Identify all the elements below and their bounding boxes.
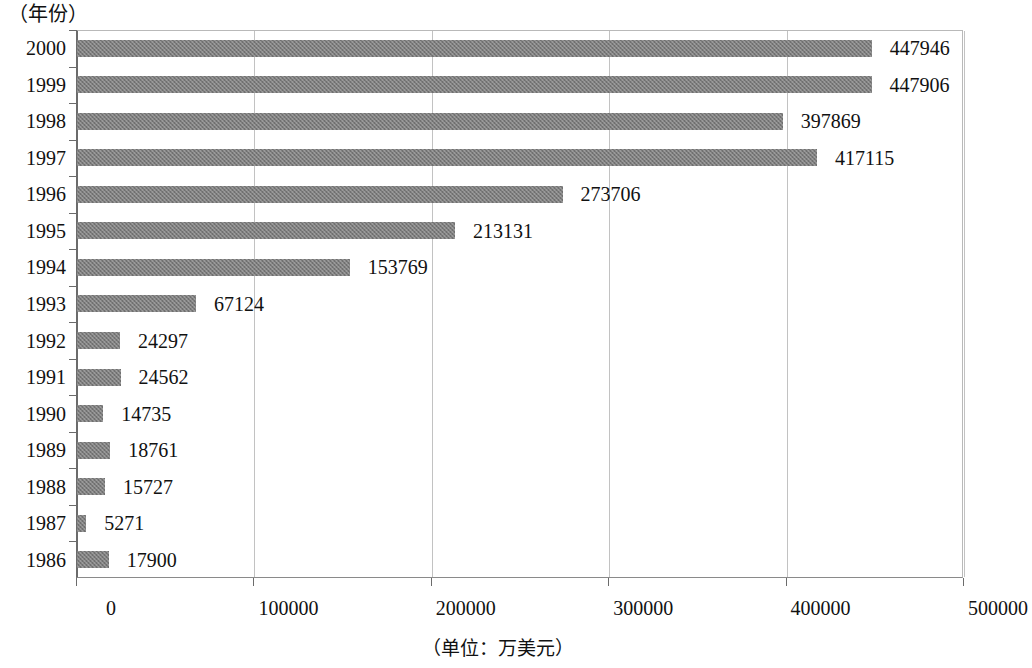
bar-row: 1999447906 [0,67,995,104]
bar-value-label: 14735 [121,403,171,425]
y-axis-tick-label: 1998 [0,111,66,131]
bar-value-label: 397869 [801,110,861,132]
bar-row: 1997417115 [0,140,995,177]
x-axis-tick-mark [431,578,432,586]
bar-value-label: 273706 [581,183,641,205]
bar-value-label: 417115 [835,147,894,169]
bar [77,149,817,166]
bar [77,222,455,239]
bar [77,332,120,349]
y-axis-tick-label: 1987 [0,513,66,533]
bar-row: 1994153769 [0,249,995,286]
bar-value-label: 213131 [473,220,533,242]
y-axis-tick-mark [69,541,77,542]
y-axis-tick-mark [69,468,77,469]
x-axis-tick-label: 400000 [751,596,891,620]
bar-row: 2000447946 [0,30,995,67]
bar [77,186,563,203]
y-axis-tick-label: 1999 [0,75,66,95]
bar-row: 199224297 [0,322,995,359]
y-axis-tick-label: 1996 [0,184,66,204]
bar-value-label: 18761 [128,439,178,461]
bar [77,551,109,568]
bar-value-label: 24297 [138,330,188,352]
y-axis-tick-mark [69,505,77,506]
bar [77,40,872,57]
y-axis-tick-mark [69,213,77,214]
bar-value-label: 5271 [104,512,144,534]
bar-value-label: 67124 [214,293,264,315]
x-axis-tick-mark [608,578,609,586]
x-axis-tick-label: 0 [41,596,181,620]
y-axis-tick-label: 1986 [0,550,66,570]
bar-row: 198815727 [0,468,995,505]
bar [77,113,783,130]
bar-row: 199014735 [0,395,995,432]
bar-value-label: 24562 [139,366,189,388]
y-axis-tick-label: 1994 [0,257,66,277]
y-axis-tick-label: 1989 [0,440,66,460]
bar-row: 1995213131 [0,213,995,250]
y-axis-tick-mark [69,322,77,323]
x-axis-tick-label: 500000 [928,596,1032,620]
y-axis-tick-mark [69,395,77,396]
bar-row: 19875271 [0,505,995,542]
bar-row: 1998397869 [0,103,995,140]
y-axis-tick-label: 1993 [0,294,66,314]
y-axis-tick-label: 1997 [0,148,66,168]
y-axis-tick-label: 1990 [0,404,66,424]
bar-row: 1996273706 [0,176,995,213]
bar-row: 198617900 [0,541,995,578]
x-axis-tick-mark [963,578,964,586]
bar [77,442,110,459]
y-axis-tick-mark [69,30,77,31]
x-axis-tick-mark [253,578,254,586]
bar [77,515,86,532]
bar [77,295,196,312]
x-axis-tick-mark [76,578,77,586]
y-axis-tick-mark [69,249,77,250]
bar-value-label: 447906 [890,74,950,96]
y-axis-tick-mark [69,140,77,141]
y-axis-tick-label: 1991 [0,367,66,387]
y-axis-tick-mark [69,432,77,433]
y-axis-heading: （年份） [8,2,88,26]
y-axis-tick-mark [69,286,77,287]
bar [77,369,121,386]
bar [77,405,103,422]
bar [77,259,350,276]
x-axis-tick-label: 300000 [573,596,713,620]
bar-row: 199124562 [0,359,995,396]
y-axis-tick-mark [69,176,77,177]
y-axis-tick-label: 2000 [0,38,66,58]
y-axis-tick-mark [69,67,77,68]
bar [77,76,872,93]
x-axis-title: （单位：万美元） [0,636,995,660]
bar-rows-layer: 2000447946199944790619983978691997417115… [0,30,995,578]
x-axis-tick-label: 100000 [218,596,358,620]
x-axis-tick-mark [786,578,787,586]
bar-row: 199367124 [0,286,995,323]
y-axis-tick-label: 1995 [0,221,66,241]
y-axis-tick-label: 1992 [0,331,66,351]
bar-row: 198918761 [0,432,995,469]
y-axis-tick-mark [69,359,77,360]
bar [77,478,105,495]
y-axis-tick-mark [69,103,77,104]
bar-value-label: 15727 [123,476,173,498]
y-axis-tick-label: 1988 [0,477,66,497]
bar-value-label: 447946 [890,37,950,59]
x-axis-tick-label: 200000 [396,596,536,620]
bar-value-label: 153769 [368,256,428,278]
bar-value-label: 17900 [127,549,177,571]
